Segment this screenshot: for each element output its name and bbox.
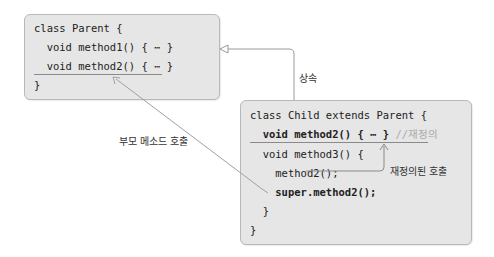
parent-class-declaration: class Parent { — [34, 21, 123, 35]
child-method3: void method3() { — [250, 147, 364, 161]
parent-class-close: } — [34, 78, 40, 92]
parent-method-call-label: 부모 메소드 호출 — [119, 133, 188, 148]
child-class-close: } — [250, 223, 256, 237]
child-method2-signature: void method2() { ⋯ } — [250, 128, 389, 140]
child-method3-close: } — [250, 204, 269, 218]
inheritance-label: 상속 — [299, 70, 317, 85]
child-method2-override: void method2() { ⋯ } //재정의 — [250, 127, 428, 143]
parent-method2: void method2() { ⋯ } — [34, 59, 162, 75]
overridden-call-label: 재정의된 호출 — [390, 163, 447, 178]
parent-method1: void method1() { ⋯ } — [34, 40, 173, 54]
super-method2-call: super.method2(); — [250, 185, 376, 199]
child-class-declaration: class Child extends Parent { — [250, 108, 427, 122]
override-comment: //재정의 — [389, 128, 438, 140]
method2-call: method2(); — [250, 166, 339, 180]
inheritance-arrow-icon — [220, 45, 294, 100]
